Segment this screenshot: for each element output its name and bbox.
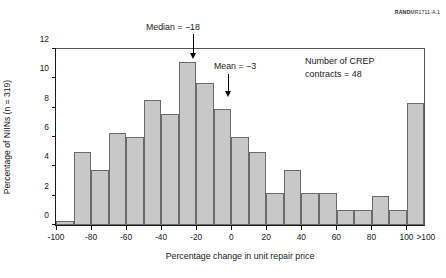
figure-id-prefix: RAND	[395, 9, 410, 15]
median-annotation-label: Median = −18	[146, 22, 200, 32]
x-tick-label: >100	[416, 232, 435, 242]
crep-note: Number of CREP contracts = 48	[305, 55, 375, 80]
x-tick-label: 100	[399, 232, 413, 242]
y-tick-label: 12	[3, 34, 56, 44]
histogram-bar	[231, 137, 249, 225]
x-tick-label: 80	[367, 232, 376, 242]
figure-id-number: MR1711-A.1	[410, 9, 440, 15]
y-tick-label: 0	[3, 210, 56, 220]
histogram-bar	[56, 221, 74, 225]
crep-note-line1: Number of CREP	[305, 55, 375, 68]
x-axis-label: Percentage change in unit repair price	[55, 251, 425, 261]
x-tick-label: 0	[229, 232, 234, 242]
histogram-bar	[109, 133, 127, 225]
histogram-bar	[74, 152, 92, 225]
histogram-bar	[161, 114, 179, 225]
histogram-bar	[372, 196, 390, 225]
histogram-bar	[144, 100, 162, 225]
mean-annotation-label: Mean = −3	[214, 61, 256, 71]
histogram-bar	[389, 210, 407, 225]
crep-note-line2: contracts = 48	[305, 68, 375, 81]
x-tick-label: 60	[332, 232, 341, 242]
x-tick-label: -20	[190, 232, 202, 242]
histogram-bar	[179, 62, 197, 225]
histogram-bar	[214, 109, 232, 225]
histogram-bar	[407, 103, 425, 225]
y-tick-label: 8	[3, 93, 56, 103]
histogram-bar	[91, 170, 109, 225]
histogram-bar	[266, 193, 284, 225]
histogram-bar	[319, 193, 337, 225]
histogram-bar	[337, 210, 355, 225]
x-tick-label: -80	[85, 232, 97, 242]
figure-id: RANDMR1711-A.1	[395, 9, 440, 15]
x-tick-label: 40	[297, 232, 306, 242]
histogram-bar	[196, 83, 214, 225]
histogram-bar	[284, 170, 302, 225]
x-tick-label: 20	[262, 232, 271, 242]
histogram-bar	[301, 193, 319, 225]
x-tick-label: -100	[48, 232, 65, 242]
y-tick-label: 4	[3, 151, 56, 161]
y-tick-label: 10	[3, 63, 56, 73]
histogram-bar	[354, 210, 372, 225]
x-tick-label: -60	[120, 232, 132, 242]
histogram-bar	[126, 137, 144, 225]
y-tick-label: 6	[3, 122, 56, 132]
y-tick-label: 2	[3, 181, 56, 191]
histogram-bar	[249, 152, 267, 225]
x-tick-label: -40	[155, 232, 167, 242]
